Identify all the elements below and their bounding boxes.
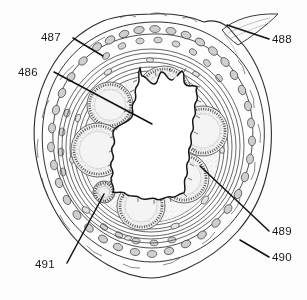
callout-label-488[interactable]: 488 bbox=[272, 33, 292, 45]
callout-label-487[interactable]: 487 bbox=[41, 31, 61, 43]
figure-root: 486 487 488 489 490 491 bbox=[0, 0, 307, 300]
histology-cross-section-diagram: 486 487 488 489 490 491 bbox=[0, 0, 307, 300]
callout-label-486[interactable]: 486 bbox=[18, 66, 38, 78]
callout-label-490[interactable]: 490 bbox=[272, 251, 292, 263]
callout-label-491[interactable]: 491 bbox=[35, 258, 55, 270]
callout-label-489[interactable]: 489 bbox=[272, 225, 292, 237]
